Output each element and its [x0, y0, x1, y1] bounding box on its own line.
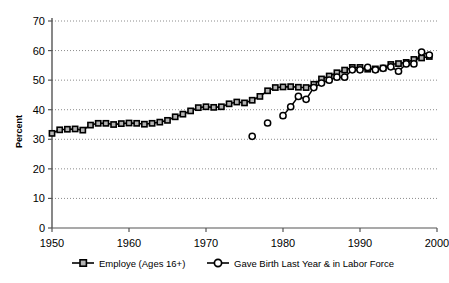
data-point-gave-birth — [334, 74, 340, 80]
data-point-gave-birth — [403, 61, 409, 67]
y-axis-tick-label: 30 — [33, 133, 45, 145]
data-point-employed — [419, 55, 424, 60]
data-point-gave-birth — [395, 68, 401, 74]
data-point-employed — [134, 121, 139, 126]
data-point-employed — [96, 121, 101, 126]
data-point-employed — [265, 88, 270, 93]
data-point-gave-birth — [288, 104, 294, 110]
square-marker-icon — [80, 260, 86, 266]
x-axis-tick-label: 1960 — [117, 237, 141, 249]
data-point-employed — [165, 118, 170, 123]
data-point-gave-birth — [342, 74, 348, 80]
y-axis-tick-label: 10 — [33, 192, 45, 204]
data-point-employed — [88, 122, 93, 127]
data-point-employed — [211, 105, 216, 110]
data-point-employed — [49, 131, 54, 136]
data-point-employed — [150, 121, 155, 126]
data-point-employed — [219, 104, 224, 109]
data-point-employed — [80, 128, 85, 133]
data-point-gave-birth — [372, 67, 378, 73]
data-point-employed — [119, 121, 124, 126]
data-point-gave-birth — [388, 64, 394, 70]
legend-label-gave-birth: Gave Birth Last Year & in Labor Force — [234, 258, 394, 269]
x-axis-tick-label: 1990 — [348, 237, 372, 249]
data-point-employed — [65, 127, 70, 132]
data-point-gave-birth — [318, 80, 324, 86]
data-point-employed — [280, 84, 285, 89]
chart-container: Percent 01020304050607019501960197019801… — [0, 0, 449, 283]
data-point-employed — [173, 114, 178, 119]
data-point-employed — [126, 120, 131, 125]
data-point-gave-birth — [349, 67, 355, 73]
data-point-employed — [73, 126, 78, 131]
x-axis-tick-label: 1980 — [271, 237, 295, 249]
data-point-gave-birth — [280, 113, 286, 119]
data-point-employed — [242, 100, 247, 105]
y-axis-tick-label: 50 — [33, 74, 45, 86]
y-axis-tick-label: 70 — [33, 15, 45, 27]
x-axis-tick-label: 1950 — [40, 237, 64, 249]
legend-label-employed: Employe (Ages 16+) — [99, 258, 185, 269]
y-axis-tick-label: 40 — [33, 104, 45, 116]
y-axis-tick-label: 20 — [33, 163, 45, 175]
y-axis-tick-label: 60 — [33, 45, 45, 57]
data-point-gave-birth — [295, 93, 301, 99]
x-axis-tick-label: 2000 — [425, 237, 449, 249]
data-point-employed — [257, 94, 262, 99]
data-point-employed — [196, 105, 201, 110]
y-axis-tick-label: 0 — [39, 222, 45, 234]
data-point-gave-birth — [357, 67, 363, 73]
data-point-gave-birth — [411, 61, 417, 67]
data-point-employed — [188, 108, 193, 113]
data-point-employed — [296, 85, 301, 90]
chart-plot: 010203040506070195019601970198019902000E… — [0, 0, 449, 283]
data-point-employed — [180, 112, 185, 117]
data-point-employed — [111, 122, 116, 127]
data-point-employed — [273, 85, 278, 90]
data-point-employed — [396, 61, 401, 66]
data-point-employed — [227, 101, 232, 106]
data-point-employed — [157, 120, 162, 125]
data-point-gave-birth — [303, 96, 309, 102]
data-point-gave-birth — [380, 65, 386, 71]
data-point-gave-birth — [426, 52, 432, 58]
circle-marker-icon — [214, 259, 221, 266]
data-point-employed — [304, 85, 309, 90]
data-point-gave-birth — [265, 120, 271, 126]
data-point-gave-birth — [326, 77, 332, 83]
data-point-employed — [288, 84, 293, 89]
data-point-employed — [203, 104, 208, 109]
data-point-gave-birth — [249, 133, 255, 139]
data-point-employed — [142, 122, 147, 127]
data-point-employed — [234, 99, 239, 104]
data-point-employed — [57, 127, 62, 132]
x-axis-tick-label: 1970 — [194, 237, 218, 249]
data-point-gave-birth — [311, 84, 317, 90]
data-point-employed — [103, 121, 108, 126]
data-point-gave-birth — [365, 64, 371, 70]
data-point-gave-birth — [419, 49, 425, 55]
data-point-employed — [250, 98, 255, 103]
data-point-employed — [342, 67, 347, 72]
